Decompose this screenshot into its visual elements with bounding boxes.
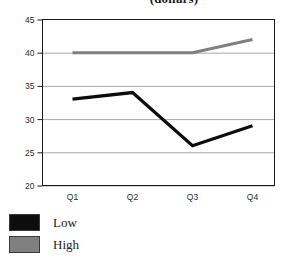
y-tick-label-30: 30	[25, 115, 35, 125]
chart-x-axis-labels: Q1Q2Q3Q4	[67, 192, 259, 202]
chart-series-high	[73, 39, 253, 52]
chart-gridlines	[43, 53, 275, 186]
y-tick-label-35: 35	[25, 81, 35, 91]
legend-swatch-high	[9, 236, 40, 253]
legend-item-low: Low	[9, 211, 209, 233]
y-tick-label-20: 20	[25, 181, 35, 191]
chart-y-axis-ticks	[38, 20, 43, 186]
x-tick-label-Q1: Q1	[67, 192, 79, 202]
series-line-high	[73, 39, 253, 52]
x-tick-label-Q4: Q4	[247, 192, 259, 202]
x-tick-label-Q3: Q3	[187, 192, 199, 202]
y-tick-label-45: 45	[25, 15, 35, 25]
x-tick-label-Q2: Q2	[127, 192, 139, 202]
chart-legend: Low High	[9, 211, 209, 255]
y-tick-label-40: 40	[25, 48, 35, 58]
chart-frame	[43, 20, 275, 186]
chart-svg: 202530354045 Q1Q2Q3Q4	[0, 0, 286, 205]
y-tick-label-25: 25	[25, 148, 35, 158]
legend-swatch-low	[9, 214, 40, 231]
chart-plot-area: 202530354045 Q1Q2Q3Q4	[0, 0, 286, 205]
legend-item-high: High	[9, 233, 209, 255]
legend-label-high: High	[53, 238, 79, 251]
chart-y-axis-labels: 202530354045	[25, 15, 35, 191]
legend-label-low: Low	[53, 216, 77, 229]
